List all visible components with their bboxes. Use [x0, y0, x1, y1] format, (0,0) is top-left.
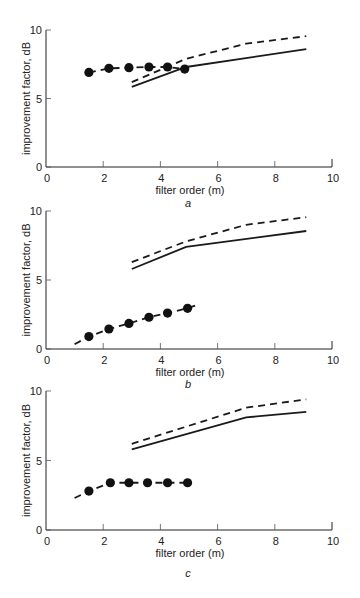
x-tick-label: 4 — [158, 535, 164, 547]
y-tick-label: 0 — [36, 524, 42, 536]
data-point-marker — [144, 313, 153, 322]
x-tick-label: 6 — [216, 172, 222, 184]
chart-panel-b: 05100246810filter order (m)improvement f… — [20, 205, 339, 390]
y-tick-label: 10 — [30, 205, 42, 217]
x-tick-label: 8 — [273, 535, 279, 547]
data-point-marker — [106, 478, 115, 487]
data-point-marker — [104, 64, 113, 73]
x-tick-label: 2 — [101, 172, 107, 184]
x-tick-label: 4 — [158, 354, 164, 366]
x-tick-label: 8 — [273, 354, 279, 366]
panel-label: b — [185, 378, 191, 390]
y-tick-label: 5 — [36, 455, 42, 467]
data-point-marker — [163, 62, 172, 71]
x-tick-label: 6 — [216, 354, 222, 366]
x-axis-label: filter order (m) — [155, 547, 224, 559]
data-point-marker — [183, 478, 192, 487]
y-tick-label: 5 — [36, 93, 42, 105]
x-tick-label: 0 — [44, 535, 50, 547]
series-solid-line — [132, 49, 306, 87]
series-dashed-line — [132, 36, 306, 82]
y-tick-label: 0 — [36, 161, 42, 173]
panel-label: c — [185, 567, 191, 579]
y-tick-label: 5 — [36, 274, 42, 286]
y-axis-label: improvement factor, dB — [20, 404, 32, 517]
chart-canvas: 05100246810filter order (m)improvement f… — [0, 0, 360, 598]
data-point-marker — [84, 68, 93, 77]
x-tick-label: 0 — [44, 172, 50, 184]
x-tick-label: 2 — [101, 535, 107, 547]
series-dashed-line — [132, 399, 306, 443]
x-tick-label: 6 — [216, 535, 222, 547]
y-axis-label: improvement factor, dB — [20, 42, 32, 155]
y-axis-label: improvement factor, dB — [20, 223, 32, 336]
axes — [46, 30, 332, 167]
data-point-marker — [143, 478, 152, 487]
x-tick-label: 10 — [327, 354, 339, 366]
data-point-marker — [180, 64, 189, 73]
data-point-marker — [124, 63, 133, 72]
chart-panel-c: 05100246810filter order (m)improvement f… — [20, 385, 339, 579]
figure: 05100246810filter order (m)improvement f… — [0, 0, 360, 598]
panel-label: a — [185, 197, 191, 209]
data-point-marker — [124, 478, 133, 487]
data-point-marker — [163, 309, 172, 318]
data-point-marker — [163, 478, 172, 487]
data-point-marker — [144, 62, 153, 71]
x-axis-label: filter order (m) — [155, 184, 224, 196]
series-solid-line — [132, 412, 306, 450]
x-tick-label: 2 — [101, 354, 107, 366]
data-point-marker — [84, 486, 93, 495]
x-tick-label: 10 — [327, 535, 339, 547]
axes — [46, 211, 332, 349]
x-axis-label: filter order (m) — [155, 366, 224, 378]
x-tick-label: 0 — [44, 354, 50, 366]
y-tick-label: 10 — [30, 385, 42, 397]
data-point-marker — [124, 319, 133, 328]
x-tick-label: 4 — [158, 172, 164, 184]
x-tick-label: 8 — [273, 172, 279, 184]
series-solid-line — [132, 231, 306, 269]
series-measured-line — [75, 304, 199, 344]
data-point-marker — [183, 304, 192, 313]
series-dashed-line — [132, 217, 306, 262]
data-point-marker — [84, 332, 93, 341]
chart-panel-a: 05100246810filter order (m)improvement f… — [20, 24, 339, 209]
y-tick-label: 0 — [36, 343, 42, 355]
axes — [46, 391, 332, 530]
x-tick-label: 10 — [327, 172, 339, 184]
y-tick-label: 10 — [30, 24, 42, 36]
data-point-marker — [104, 324, 113, 333]
